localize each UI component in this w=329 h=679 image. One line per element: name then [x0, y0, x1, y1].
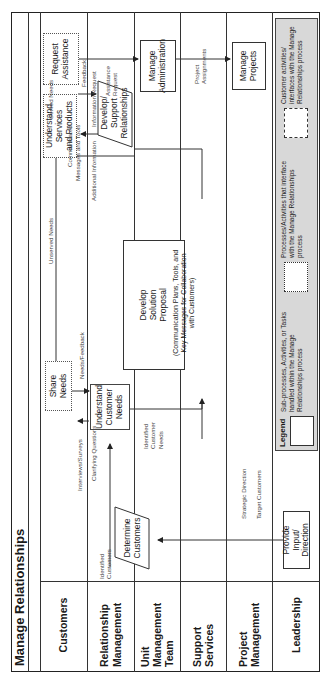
legend-text-dotted: Processes/Activities that interface with…	[280, 148, 303, 258]
label-communicated: Communicated	[66, 125, 73, 167]
node-understand-customer-needs: Understand Customer Needs	[90, 384, 130, 430]
label-unserved-needs: Unserved Needs	[47, 218, 54, 264]
label-identified-customer-needs: Identified Customer Needs	[142, 422, 164, 449]
label-clarifying-questions: Clarifying Questions	[90, 426, 97, 481]
label-needs-feedback: Needs/Feedback	[78, 332, 85, 379]
label-strategic-direction: Strategic Direction	[240, 468, 247, 519]
node-provide-input-direction: Provide Input/ Direction	[283, 511, 310, 569]
node-manage-administration: Manage Administration	[140, 40, 176, 92]
label-additional-information: Additional Information	[90, 141, 97, 201]
diagram-canvas: Manage Relationships Customers Relations…	[0, 0, 329, 679]
label-identified-customers: Identified Customers	[98, 549, 113, 579]
node-text: Administration	[158, 39, 168, 93]
node-text: Assistance	[61, 38, 71, 79]
legend-text-solid: Sub-processes, Activities, or Tasks hand…	[280, 302, 303, 412]
node-determine-customers: Determine Customers	[118, 515, 148, 561]
label-line: Assignments	[200, 49, 207, 84]
legend-swatch-dashed	[284, 108, 308, 138]
node-share-needs: Share Needs	[45, 361, 72, 411]
label-line: Needs	[157, 422, 164, 449]
legend: Legend Sub-processes, Activities, or Tas…	[275, 18, 318, 451]
label-line: Assistance	[104, 66, 111, 96]
node-request-assistance: Request Assistance	[43, 33, 79, 85]
legend-swatch-dotted	[284, 262, 308, 292]
node-text: Proposal	[159, 288, 169, 322]
label-interviews-surveys: Interviews/Surveys	[76, 439, 83, 491]
legend-swatch-solid	[290, 416, 314, 446]
label-line: Identified	[142, 422, 149, 449]
node-manage-projects: Manage Projects	[232, 42, 266, 90]
label-messages-tools: Messages and Tools	[74, 125, 81, 181]
label-target-customers: Target Customers	[255, 470, 262, 519]
label-line: Customers	[105, 549, 112, 579]
node-text: Needs	[115, 395, 125, 420]
legend-title: Legend	[278, 419, 287, 447]
label-served-needs: Served Needs	[47, 80, 54, 119]
label-feedback: Feedback	[80, 60, 87, 87]
node-text: Needs	[59, 374, 69, 399]
node-develop-solution-subtitle: (Communication Plans, Tools, and Key Mes…	[172, 247, 196, 359]
node-text: Direction	[301, 523, 311, 557]
node-text: Projects	[249, 51, 259, 82]
label-information-request: Information Request	[90, 71, 97, 127]
node-text: Customers	[133, 517, 143, 558]
legend-text-dashed: Customer activities/ interfaces with the…	[280, 20, 303, 104]
label-project-assignments: Project Assignments	[193, 49, 208, 84]
label-line: Identified	[98, 549, 105, 579]
label-assistance-request: Assistance Request	[104, 66, 119, 96]
label-line: Request	[111, 66, 118, 96]
label-line: Customer	[149, 422, 156, 449]
label-line: Project	[193, 49, 200, 84]
node-text: Relationships	[120, 87, 130, 138]
